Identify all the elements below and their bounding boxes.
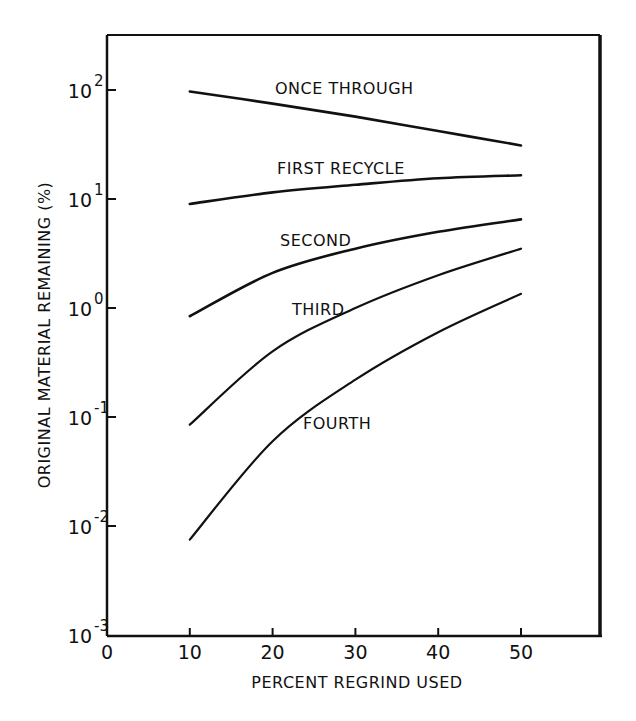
y-tick-label: 10 <box>68 80 92 102</box>
y-tick-exponent: 2 <box>94 72 104 90</box>
y-tick-exponent: 1 <box>94 181 104 199</box>
y-axis-title: ORIGINAL MATERIAL REMAINING (%) <box>35 182 54 489</box>
y-tick-label: 10 <box>68 516 92 538</box>
x-tick-label: 0 <box>101 641 113 663</box>
x-axis-title: PERCENT REGRIND USED <box>251 673 462 692</box>
y-tick-exponent: -2 <box>94 508 109 526</box>
curve-label-once-through: ONCE THROUGH <box>275 79 414 98</box>
curve-label-third: THIRD <box>291 300 344 319</box>
y-tick-label: 10 <box>68 298 92 320</box>
y-tick-exponent: -3 <box>94 617 109 635</box>
y-tick-label: 10 <box>68 625 92 647</box>
x-tick-label: 50 <box>509 641 533 663</box>
curve-label-second: SECOND <box>280 231 351 250</box>
plot-frame <box>107 35 602 636</box>
chart: 10210110010-110-210-3 01020304050 ONCE T… <box>0 0 636 721</box>
x-tick-label: 10 <box>178 641 202 663</box>
x-tick-label: 20 <box>261 641 285 663</box>
x-axis-ticks: 01020304050 <box>101 628 533 663</box>
x-tick-label: 40 <box>426 641 450 663</box>
curve-first-recycle <box>190 175 521 204</box>
y-tick-label: 10 <box>68 407 92 429</box>
y-tick-label: 10 <box>68 189 92 211</box>
y-tick-exponent: 0 <box>94 290 104 308</box>
curve-once-through <box>190 91 521 145</box>
curve-label-first-recycle: FIRST RECYCLE <box>277 159 405 178</box>
y-axis-ticks: 10210110010-110-210-3 <box>68 72 116 647</box>
y-tick-exponent: -1 <box>94 399 109 417</box>
x-tick-label: 30 <box>343 641 367 663</box>
curve-label-fourth: FOURTH <box>303 414 371 433</box>
curve-third <box>190 249 521 425</box>
curve-labels: ONCE THROUGHFIRST RECYCLESECONDTHIRDFOUR… <box>275 79 414 433</box>
curve-second <box>190 219 521 316</box>
